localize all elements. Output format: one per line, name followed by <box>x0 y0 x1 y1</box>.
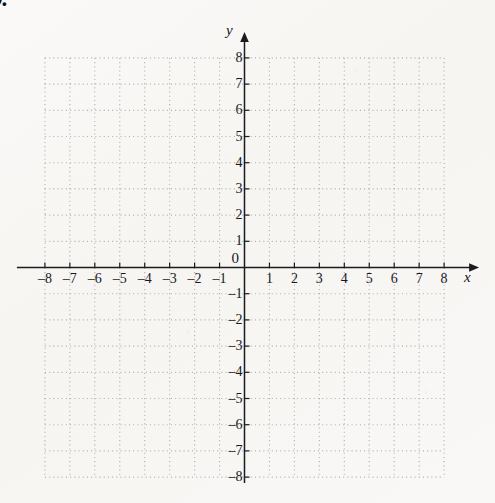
y-tick-label: 3 <box>236 182 243 196</box>
y-tick-label: 1 <box>236 234 243 248</box>
coordinate-plane <box>0 0 495 503</box>
x-tick-label: 5 <box>366 272 373 286</box>
x-tick-label: 6 <box>391 272 398 286</box>
y-tick-label: 4 <box>236 156 243 170</box>
y-tick-label: –4 <box>229 365 243 379</box>
y-tick-label: –7 <box>229 444 243 458</box>
y-tick-label: –6 <box>229 418 243 432</box>
y-tick-label: –2 <box>229 313 243 327</box>
y-tick-label: –1 <box>229 287 243 301</box>
y-tick-label: 5 <box>236 130 243 144</box>
x-axis-label: x <box>464 269 471 286</box>
origin-label: 0 <box>232 251 240 266</box>
y-tick-label: 6 <box>236 103 243 117</box>
y-tick-label: 8 <box>236 51 243 65</box>
x-tick-label: –3 <box>163 272 177 286</box>
x-tick-label: –5 <box>113 272 127 286</box>
x-tick-label: –1 <box>213 272 227 286</box>
y-tick-label: –5 <box>229 392 243 406</box>
x-tick-label: 1 <box>266 272 273 286</box>
axes <box>17 32 479 483</box>
x-tick-label: –4 <box>138 272 152 286</box>
worksheet-page: 9. y x 0 –8–7–6–5–4–3–2–1123456788765432… <box>0 0 495 503</box>
x-tick-label: –2 <box>188 272 202 286</box>
x-tick-label: 7 <box>416 272 423 286</box>
x-tick-label: –7 <box>63 272 77 286</box>
y-tick-label: 2 <box>236 208 243 222</box>
y-tick-label: –8 <box>229 470 243 484</box>
x-tick-label: –8 <box>38 272 52 286</box>
x-tick-label: –6 <box>88 272 102 286</box>
x-tick-label: 4 <box>341 272 348 286</box>
x-tick-label: 3 <box>316 272 323 286</box>
y-tick-label: –3 <box>229 339 243 353</box>
y-tick-label: 7 <box>236 77 243 91</box>
x-tick-label: 2 <box>291 272 298 286</box>
y-axis-label: y <box>226 22 233 39</box>
x-tick-label: 8 <box>441 272 448 286</box>
